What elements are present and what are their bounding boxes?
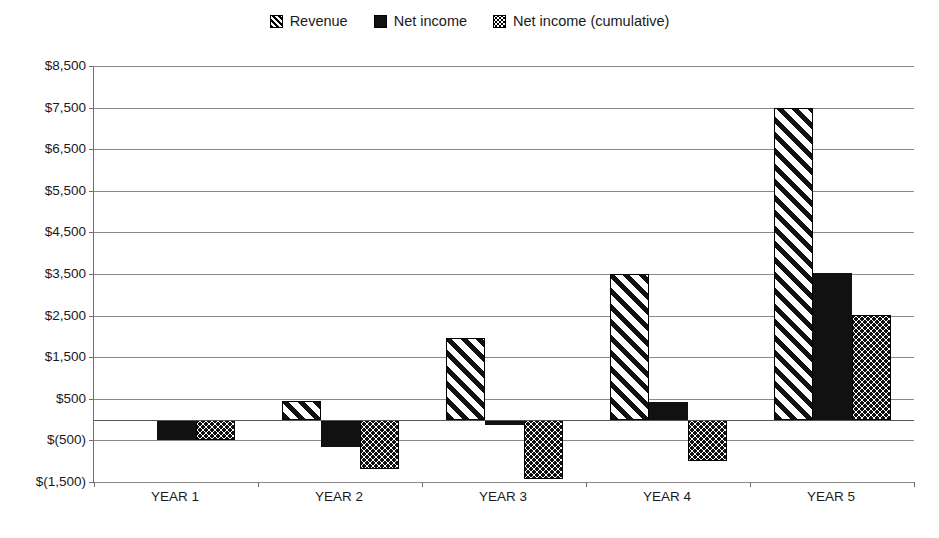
x-axis-category-label: YEAR 4 <box>643 490 691 504</box>
y-axis-tick-label: $7,500 <box>45 101 86 115</box>
y-axis-tick-label: $(500) <box>47 434 86 448</box>
bar-net-income-cumulative <box>524 420 563 479</box>
x-axis-tick <box>914 482 915 487</box>
y-axis-tick-label: $2,500 <box>45 309 86 323</box>
x-axis-tick <box>422 482 423 487</box>
bar-net-income-cumulative <box>852 315 891 420</box>
x-axis-category-label: YEAR 5 <box>807 490 855 504</box>
gridline <box>94 482 914 483</box>
x-axis-tick <box>750 482 751 487</box>
y-axis-tick-label: $1,500 <box>45 350 86 364</box>
chart-legend: Revenue Net income Net income (cumulativ… <box>0 14 939 29</box>
y-axis-tick-label: $3,500 <box>45 267 86 281</box>
plot-area <box>93 66 914 482</box>
x-axis-category-label: YEAR 2 <box>315 490 363 504</box>
bar-net-income <box>649 402 688 420</box>
bar-revenue <box>446 338 485 419</box>
legend-item-net-income-cumulative: Net income (cumulative) <box>493 14 669 29</box>
bar-net-income-cumulative <box>360 420 399 469</box>
x-axis-tick <box>258 482 259 487</box>
bar-revenue <box>282 401 321 420</box>
bar-net-income-cumulative <box>688 420 727 462</box>
y-axis-tick-labels: $8,500$7,500$6,500$5,500$4,500$3,500$2,5… <box>0 0 86 538</box>
legend-label-net-income: Net income <box>394 14 467 29</box>
solid-swatch-icon <box>374 15 387 28</box>
x-axis-category-label: YEAR 1 <box>151 490 199 504</box>
legend-item-revenue: Revenue <box>270 14 348 29</box>
legend-item-net-income: Net income <box>374 14 467 29</box>
legend-label-revenue: Revenue <box>290 14 348 29</box>
bar-revenue <box>774 108 813 420</box>
y-axis-tick-label: $6,500 <box>45 142 86 156</box>
bar-net-income <box>157 420 196 441</box>
x-axis-tick <box>94 482 95 487</box>
zero-baseline <box>94 420 914 421</box>
hatch-swatch-icon <box>270 15 283 28</box>
y-axis-tick-label: $500 <box>56 392 86 406</box>
x-axis-category-label: YEAR 3 <box>479 490 527 504</box>
legend-label-net-income-cumulative: Net income (cumulative) <box>513 14 669 29</box>
y-axis-tick-label: $(1,500) <box>36 475 86 489</box>
bar-net-income <box>813 273 852 420</box>
bar-chart: Revenue Net income Net income (cumulativ… <box>0 0 939 538</box>
y-axis-tick-label: $4,500 <box>45 226 86 240</box>
y-axis-tick-label: $5,500 <box>45 184 86 198</box>
bar-net-income <box>321 420 360 447</box>
bar-revenue <box>610 274 649 420</box>
x-axis-tick <box>586 482 587 487</box>
bar-net-income-cumulative <box>196 420 235 441</box>
x-axis-labels: YEAR 1YEAR 2YEAR 3YEAR 4YEAR 5 <box>93 490 913 510</box>
y-axis-tick-label: $8,500 <box>45 59 86 73</box>
dotted-swatch-icon <box>493 15 506 28</box>
